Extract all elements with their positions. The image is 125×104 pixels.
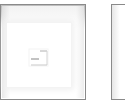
thumbnail-2[interactable] <box>111 4 125 100</box>
document-icon <box>28 48 49 67</box>
thumbnail-1[interactable] <box>0 4 86 100</box>
